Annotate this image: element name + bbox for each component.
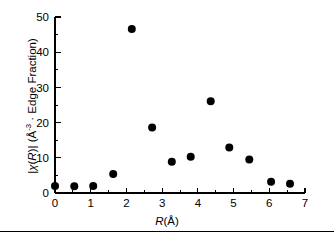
figure-container: 0123456701020304050 R(Å) |χ(R)| (Å-3 · E… — [0, 0, 334, 241]
y-arg-symbol: R — [26, 152, 38, 160]
y-arg-open: ( — [26, 161, 38, 165]
data-point — [168, 158, 176, 166]
y-axis-title: |χ(R)| (Å-3 · Edge Fraction) — [27, 38, 39, 174]
y-arg-close: ) — [26, 149, 38, 153]
y-units-exponent: -3 — [24, 124, 33, 131]
x-tick-label: 2 — [123, 197, 129, 209]
data-point — [267, 178, 275, 186]
data-point — [51, 182, 59, 190]
data-point — [109, 170, 117, 178]
y-magnitude-open: | — [26, 171, 38, 174]
y-tick-label: 0 — [43, 187, 49, 199]
x-tick-label: 4 — [195, 197, 202, 209]
data-point — [245, 156, 253, 164]
x-axis-title: R(Å) — [0, 216, 334, 228]
data-point — [70, 182, 78, 190]
scatter-plot: 0123456701020304050 — [0, 0, 334, 241]
x-tick-label: 5 — [230, 197, 236, 209]
x-tick-label: 3 — [159, 197, 165, 209]
y-units-mid: · Edge Fraction) — [26, 38, 38, 124]
x-tick-label: 1 — [88, 197, 94, 209]
data-point — [286, 180, 294, 188]
data-point — [148, 124, 156, 132]
y-chi-symbol: χ — [26, 165, 38, 171]
data-point — [187, 153, 195, 161]
x-tick-label: 0 — [52, 197, 58, 209]
data-point — [89, 182, 97, 190]
y-units-open: (Å — [26, 131, 38, 146]
x-axis-unit: (Å) — [163, 215, 178, 227]
x-tick-label: 6 — [266, 197, 272, 209]
data-point — [225, 144, 233, 152]
data-point — [207, 97, 215, 105]
footer-divider — [0, 231, 334, 232]
x-tick-label: 7 — [302, 197, 308, 209]
y-axis-title-wrapper: |χ(R)| (Å-3 · Edge Fraction) — [22, 11, 40, 201]
data-point — [128, 25, 136, 33]
